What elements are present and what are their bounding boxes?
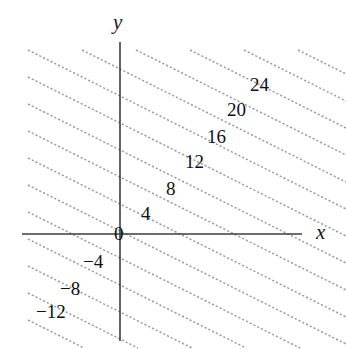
contour-line — [28, 50, 346, 209]
contour-level-label: 12 — [185, 152, 204, 171]
contour-level-label: 16 — [207, 127, 226, 146]
contour-line — [28, 320, 84, 348]
contour-level-label: 4 — [141, 204, 151, 223]
contour-lines-group — [28, 50, 346, 348]
contour-level-label: 8 — [166, 179, 176, 198]
contour-level-label: −8 — [60, 279, 80, 298]
contour-level-label: −12 — [36, 302, 66, 321]
contour-plot-figure: y x 24201612840−4−8−12 — [0, 0, 346, 349]
contour-line — [28, 185, 346, 344]
contour-level-label: 20 — [227, 100, 246, 119]
y-axis-label: y — [113, 12, 122, 33]
contour-level-label: −4 — [83, 252, 103, 271]
contour-level-label: 24 — [250, 75, 269, 94]
plot-canvas — [0, 0, 346, 349]
contour-line — [298, 50, 346, 74]
contour-line — [28, 104, 346, 263]
origin-label: 0 — [114, 224, 124, 243]
contour-line — [82, 50, 346, 182]
x-axis-label: x — [316, 222, 325, 243]
